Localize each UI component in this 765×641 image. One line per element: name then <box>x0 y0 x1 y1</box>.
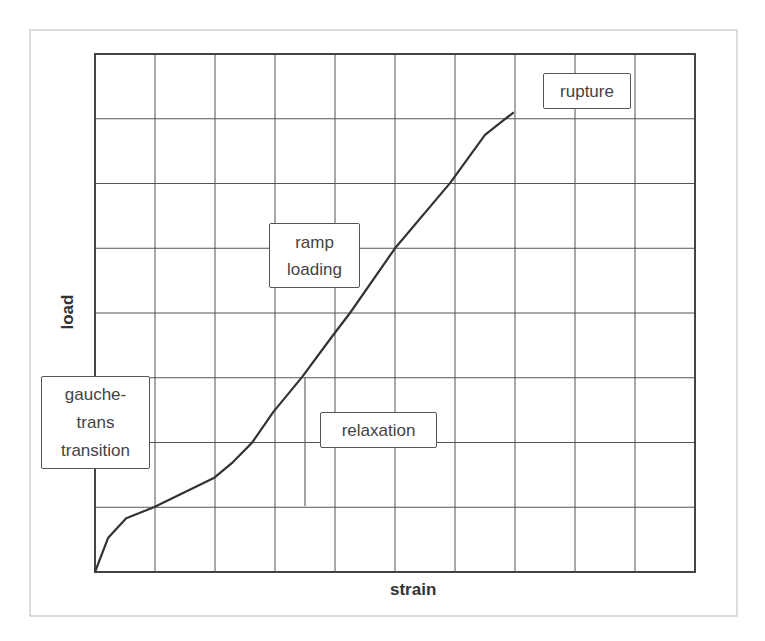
annotation-ramp-loading: ramp loading <box>269 223 360 288</box>
annotation-relaxation: relaxation <box>320 412 437 448</box>
annotation-ramp-text-1: ramp <box>295 229 334 256</box>
annotation-rupture-text: rupture <box>560 80 614 103</box>
y-axis-label: load <box>58 292 78 332</box>
annotation-gauche-text-2: trans <box>77 409 115 437</box>
annotation-gauche-trans: gauche- trans transition <box>41 376 150 469</box>
annotation-ramp-text-2: loading <box>287 256 342 283</box>
annotation-rupture: rupture <box>543 73 631 109</box>
outer-frame <box>30 30 737 616</box>
annotation-relaxation-text: relaxation <box>342 419 416 442</box>
grid-lines <box>95 54 695 572</box>
x-axis-label: strain <box>390 580 436 600</box>
plot-canvas <box>0 0 765 641</box>
chart-figure: rupture ramp loading relaxation gauche- … <box>0 0 765 641</box>
annotation-gauche-text-3: transition <box>61 437 130 465</box>
annotation-gauche-text-1: gauche- <box>65 381 126 409</box>
